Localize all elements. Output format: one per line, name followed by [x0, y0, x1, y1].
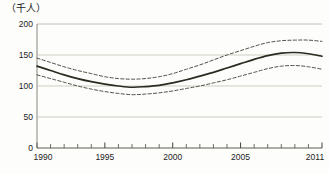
y-tick-label-150: 150 — [19, 50, 33, 60]
y-tick-label-0: 0 — [28, 143, 33, 153]
y-tick-label-100: 100 — [19, 81, 33, 91]
x-tick-label-1995: 1995 — [95, 152, 114, 162]
x-tick-label-2005: 2005 — [231, 152, 250, 162]
x-tick-label-1990: 1990 — [34, 152, 53, 162]
series-line-lower-bound — [37, 66, 322, 95]
x-tick-label-2011: 2011 — [306, 152, 325, 162]
y-tick-label-200: 200 — [19, 19, 33, 29]
data-series-group — [37, 40, 322, 95]
chart-figure: （千人） 050100150200 19901995200020052011 — [0, 0, 329, 174]
line-chart-plot: 050100150200 19901995200020052011 — [0, 0, 329, 174]
gridlines-group — [37, 24, 322, 117]
y-tick-label-50: 50 — [24, 112, 34, 122]
x-tick-label-2000: 2000 — [163, 152, 182, 162]
x-axis-minor-ticks — [51, 144, 309, 148]
y-axis-tick-labels: 050100150200 — [19, 19, 33, 153]
series-line-central-estimate — [37, 52, 322, 87]
x-axis-major-ticks — [37, 143, 322, 149]
x-axis-tick-labels: 19901995200020052011 — [34, 152, 325, 162]
series-line-upper-bound — [37, 40, 322, 79]
